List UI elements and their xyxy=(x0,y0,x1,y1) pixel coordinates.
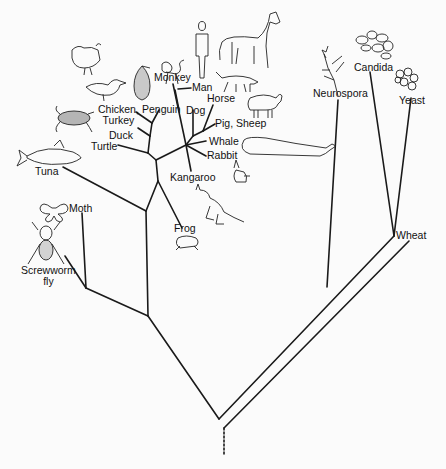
moth-illustration xyxy=(40,204,68,222)
screwworm-fly-illustration xyxy=(28,222,64,264)
taxon-label-dog: Dog xyxy=(186,105,205,116)
taxon-label-whale: Whale xyxy=(209,136,239,147)
rabbit-illustration xyxy=(234,160,250,182)
taxon-label-kangaroo: Kangaroo xyxy=(170,172,216,183)
horse-illustration xyxy=(219,12,280,68)
whale-illustration xyxy=(242,137,336,156)
tuna-illustration xyxy=(17,140,81,166)
taxon-label-neurospora: Neurospora xyxy=(313,88,368,99)
sheep-illustration xyxy=(248,94,282,118)
candida-illustration xyxy=(356,31,393,59)
taxon-label-horse: Horse xyxy=(207,93,235,104)
taxon-label-moth: Moth xyxy=(69,203,92,214)
taxon-label-yeast: Yeast xyxy=(399,95,425,106)
taxon-label-monkey: Monkey xyxy=(154,72,191,83)
label-line: fly xyxy=(21,276,76,287)
chicken-illustration xyxy=(72,44,101,75)
taxon-label-pig-sheep: Pig, Sheep xyxy=(215,118,266,129)
penguin-illustration xyxy=(134,66,150,100)
taxon-label-turtle: Turtle xyxy=(91,141,117,152)
taxon-label-chicken-turkey: Chicken, Turkey xyxy=(98,104,139,126)
dog-illustration xyxy=(216,72,258,92)
taxon-label-screwworm-fly: Screwworm fly xyxy=(21,265,76,287)
taxon-label-wheat: Wheat xyxy=(396,230,426,241)
taxon-label-rabbit: Rabbit xyxy=(207,150,237,161)
taxon-label-candida: Candida xyxy=(354,62,393,73)
man-illustration xyxy=(196,22,208,79)
kangaroo-illustration xyxy=(196,184,244,224)
frog-illustration xyxy=(176,236,198,250)
label-line: Turkey xyxy=(98,115,139,126)
turtle-illustration xyxy=(56,106,94,132)
taxon-label-frog: Frog xyxy=(174,223,196,234)
taxon-label-tuna: Tuna xyxy=(35,166,59,177)
duck-illustration xyxy=(86,80,126,101)
yeast-illustration xyxy=(395,68,418,90)
taxon-label-penguin: Penguin xyxy=(142,104,181,115)
